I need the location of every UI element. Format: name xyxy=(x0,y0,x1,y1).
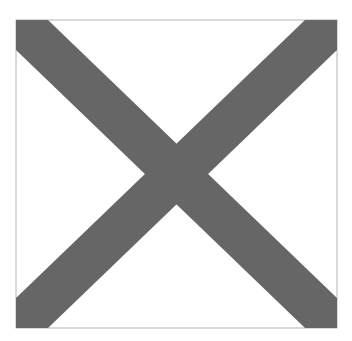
cross-diagram xyxy=(0,0,352,341)
